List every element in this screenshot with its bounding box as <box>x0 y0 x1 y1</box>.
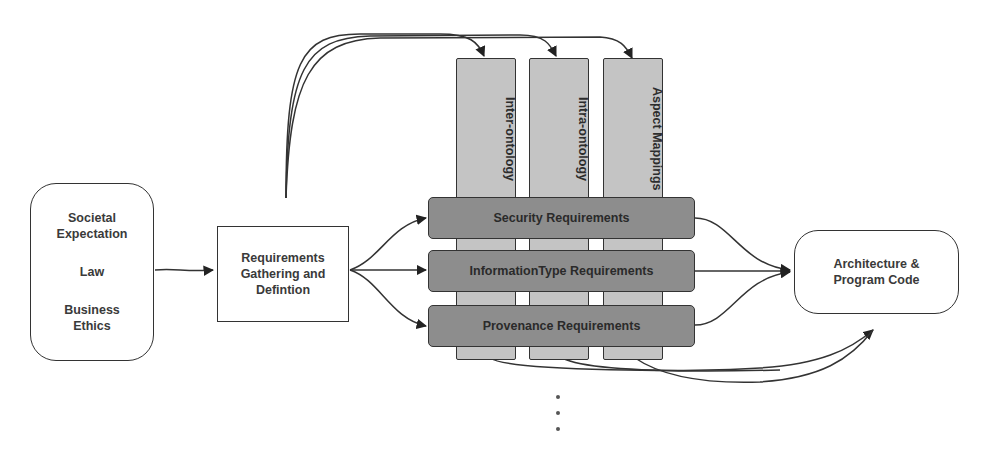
column-label: Intra-ontology <box>530 69 590 209</box>
continuation-ellipsis <box>556 395 564 443</box>
band-provenance-requirements: Provenance Requirements <box>428 305 695 347</box>
requirements-gathering-box: Requirements Gathering and Defintion <box>217 226 349 322</box>
band-security-requirements: Security Requirements <box>428 197 695 239</box>
column-label: Inter-ontology <box>457 69 517 209</box>
source-line-5: Ethics <box>73 318 111 334</box>
ellipsis-dot <box>556 411 560 415</box>
source-line-1: Societal <box>68 210 116 226</box>
process-line-2: Gathering and <box>241 266 326 282</box>
target-line-1: Architecture & <box>833 256 919 272</box>
source-line-4: Business <box>64 302 120 318</box>
process-line-1: Requirements <box>241 250 324 266</box>
target-line-2: Program Code <box>833 272 919 288</box>
societal-inputs-box: Societal Expectation Law Business Ethics <box>30 183 154 361</box>
band-informationtype-requirements: InformationType Requirements <box>428 250 695 292</box>
source-line-3: Law <box>80 264 104 280</box>
column-label: Aspect Mappings <box>604 69 664 209</box>
process-line-3: Defintion <box>256 282 310 298</box>
ellipsis-dot <box>556 395 560 399</box>
source-line-2: Expectation <box>57 226 128 242</box>
architecture-program-code-box: Architecture & Program Code <box>794 230 959 314</box>
ellipsis-dot <box>556 427 560 431</box>
